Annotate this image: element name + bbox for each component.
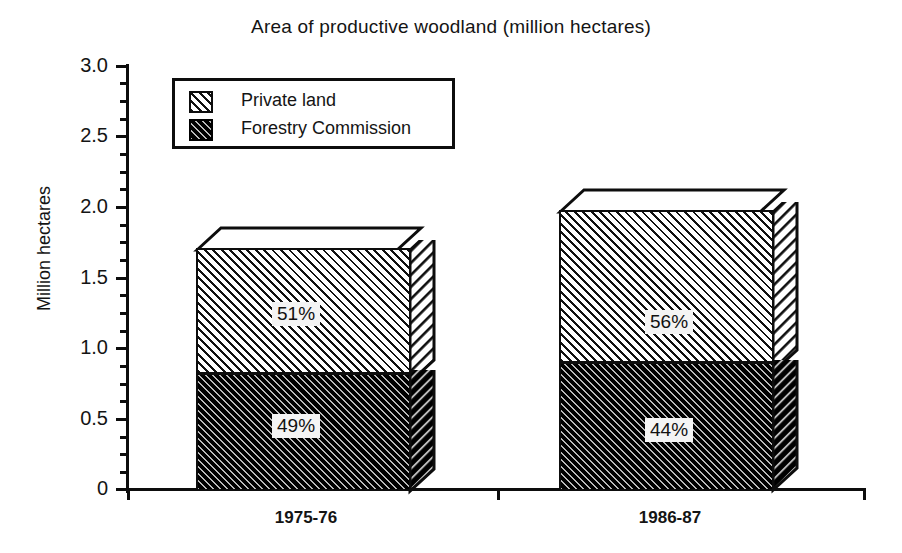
legend-swatch-forestry-commission-icon bbox=[189, 119, 213, 141]
legend: Private land Forestry Commission bbox=[172, 78, 455, 149]
bar-segment-private-land-1986-87 bbox=[559, 210, 774, 363]
legend-label-private-land: Private land bbox=[241, 90, 336, 111]
chart-canvas: Area of productive woodland (million hec… bbox=[0, 0, 902, 553]
data-label-private-land-1986-87: 56% bbox=[645, 310, 693, 334]
bar-side-lower-1986-87 bbox=[771, 360, 811, 510]
legend-swatch-private-land-icon bbox=[189, 91, 213, 113]
legend-label-forestry-commission: Forestry Commission bbox=[241, 118, 411, 139]
data-label-forestry-commission-1986-87: 44% bbox=[645, 418, 693, 442]
